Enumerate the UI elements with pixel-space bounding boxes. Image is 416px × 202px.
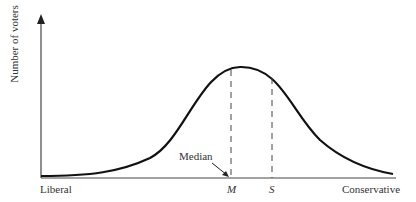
voter-distribution-diagram	[0, 0, 416, 202]
liberal-label: Liberal	[40, 183, 72, 195]
y-axis-label: Number of voters	[8, 0, 20, 89]
distribution-curve	[41, 67, 393, 176]
m-marker-label: M	[227, 183, 236, 195]
s-marker-label: S	[269, 183, 275, 195]
y-axis-arrow-icon	[37, 14, 45, 24]
median-label: Median	[179, 150, 213, 162]
conservative-label: Conservative	[342, 183, 400, 195]
